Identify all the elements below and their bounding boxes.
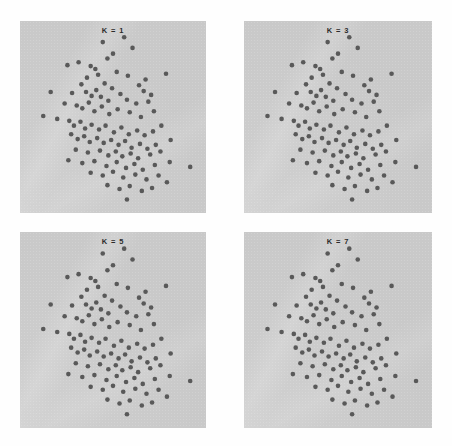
panel-k3-label: K = 3 — [244, 26, 432, 35]
panel-k5[interactable]: K = 5 — [20, 232, 206, 428]
panel-k7-label: K = 7 — [244, 237, 432, 246]
scatter-plot-k7 — [244, 232, 432, 428]
panel-k1-label: K = 1 — [20, 26, 206, 35]
panel-k5-label: K = 5 — [20, 237, 206, 246]
scatter-plot-k1 — [20, 21, 206, 213]
scatter-svg-k5 — [20, 232, 206, 428]
scatter-svg-k3 — [244, 21, 432, 213]
panel-k1[interactable]: K = 1 — [20, 21, 206, 213]
panel-k3[interactable]: K = 3 — [244, 21, 432, 213]
scatter-svg-k7 — [244, 232, 432, 428]
scatter-plot-k3 — [244, 21, 432, 213]
panel-k7[interactable]: K = 7 — [244, 232, 432, 428]
scatter-plot-k5 — [20, 232, 206, 428]
figure-root: K = 1 K = 3 K = 5 K = 7 — [0, 0, 452, 446]
scatter-svg-k1 — [20, 21, 206, 213]
figure-title — [0, 0, 452, 2]
